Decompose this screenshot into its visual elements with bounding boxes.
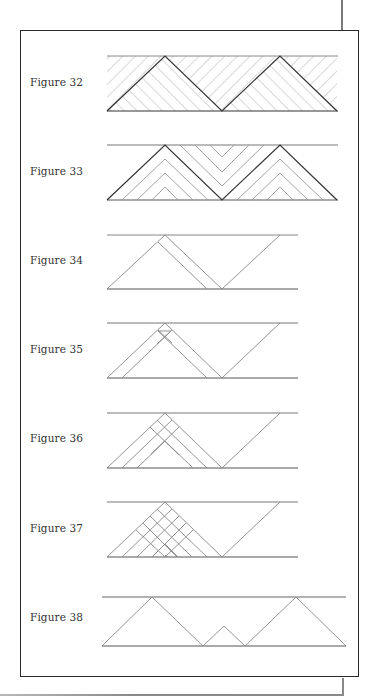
figure-33-diagram xyxy=(107,145,338,200)
figure-37-diagram xyxy=(107,502,298,557)
figure-38-diagram xyxy=(102,597,346,646)
figure-36-diagram xyxy=(107,413,298,468)
figure-34-diagram xyxy=(107,235,298,289)
figure-32-diagram xyxy=(107,56,338,111)
figure-35-diagram xyxy=(107,323,298,378)
figures-canvas xyxy=(0,0,376,700)
